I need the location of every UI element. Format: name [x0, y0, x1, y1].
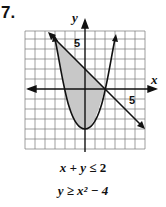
inequality-2-rhs: x² − 4: [77, 183, 108, 198]
y-axis-arrow-icon: [82, 20, 88, 28]
inequality-2: y ≥ x² − 4: [0, 183, 166, 199]
x-tick-label-5: 5: [129, 94, 135, 106]
inequality-2-op: ≥: [67, 183, 74, 198]
inequality-graph: y x 5 5: [0, 0, 166, 155]
inequality-1-lhs: x + y: [60, 160, 86, 175]
inequality-2-lhs: y: [58, 183, 64, 198]
inequality-1-op: ≤: [89, 160, 96, 175]
inequality-1-rhs: 2: [100, 160, 107, 175]
y-axis-label: y: [70, 10, 78, 25]
x-axis-label: x: [150, 72, 158, 87]
x-axis-left-arrow-icon: [28, 86, 36, 92]
y-tick-label-5: 5: [74, 37, 80, 49]
inequality-1: x + y ≤ 2: [0, 160, 166, 176]
